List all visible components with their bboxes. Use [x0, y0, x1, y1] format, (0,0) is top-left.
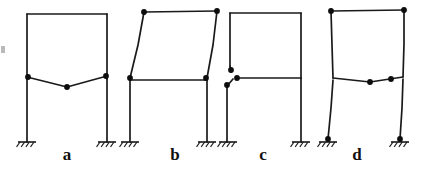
scan-artifacts-layer — [1, 46, 5, 53]
left-column-lower-deformed — [328, 80, 333, 139]
node-base-left — [325, 136, 331, 142]
right-column-upper-deformed — [403, 10, 404, 77]
node-mid-right — [388, 76, 394, 82]
fixed-support — [197, 142, 216, 147]
node-mid-right — [203, 75, 209, 81]
frame-b — [120, 8, 220, 147]
node-joint-lower — [224, 82, 230, 88]
frame-c — [218, 13, 310, 147]
node-base-right — [397, 136, 403, 142]
node-top-left — [328, 8, 334, 14]
fixed-support — [97, 142, 116, 147]
frames-diagram-svg: abcd — [0, 0, 424, 169]
scan-speck-left-edge — [1, 46, 5, 53]
frame-label-d: d — [352, 145, 362, 164]
fixed-support — [390, 142, 409, 147]
right-column-lower-deformed — [400, 79, 403, 139]
fixed-support — [120, 142, 139, 147]
node-mid-left — [127, 75, 133, 81]
right-column-upper-deformed — [207, 11, 217, 78]
node-top-right — [214, 8, 220, 14]
node-joint-upper — [228, 67, 234, 73]
fixed-support — [291, 142, 310, 147]
frame-d — [318, 7, 409, 147]
roof-beam-deformed — [144, 11, 217, 12]
roof-beam-deformed — [331, 10, 404, 11]
left-column-upper-deformed — [130, 12, 144, 78]
node-mid-right — [103, 73, 109, 79]
node-mid-left — [25, 74, 31, 80]
fixed-support — [17, 142, 36, 147]
frame-a — [17, 14, 116, 147]
left-column-upper-deformed — [331, 11, 333, 78]
node-top-left — [141, 9, 147, 15]
frame-label-a: a — [63, 145, 72, 164]
frame-deformation-figure: abcd — [0, 0, 424, 169]
node-mid-center — [367, 79, 373, 85]
frame-label-c: c — [259, 145, 267, 164]
fixed-support — [218, 142, 237, 147]
node-joint-beam — [234, 75, 240, 81]
frame-labels-layer: abcd — [63, 145, 363, 164]
frame-label-b: b — [170, 145, 179, 164]
frames-layer — [17, 7, 409, 147]
node-mid-center — [64, 84, 70, 90]
node-top-right — [401, 7, 407, 13]
fixed-support — [318, 142, 337, 147]
